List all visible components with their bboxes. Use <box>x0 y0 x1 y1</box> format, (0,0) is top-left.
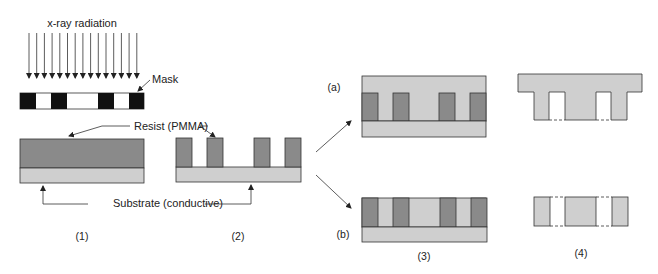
mask-pointer <box>138 80 150 91</box>
step3a-structure <box>362 76 486 137</box>
step3-label: (3) <box>418 250 431 262</box>
liga-process-diagram: x-ray radiation Mask Resist (PMMA) <box>0 0 658 274</box>
resist-leader-1 <box>69 126 130 136</box>
radiation-arrows <box>29 33 137 78</box>
step1-resist <box>20 139 144 168</box>
step2-substrate <box>176 167 301 182</box>
step1-substrate <box>20 168 144 183</box>
step3a-substrate <box>362 121 486 137</box>
step2-structure <box>176 138 301 182</box>
mask-label: Mask <box>152 73 179 85</box>
mask <box>20 93 144 109</box>
branch-a-arrow <box>316 121 351 152</box>
step3b-substrate <box>362 227 487 242</box>
step4a-structure <box>518 74 642 120</box>
step1-label: (1) <box>76 230 89 242</box>
step4b-structure <box>534 197 628 226</box>
substrate-label: Substrate (conductive) <box>113 197 223 209</box>
diagram-svg: x-ray radiation Mask Resist (PMMA) <box>0 0 658 274</box>
branch-a-label: (a) <box>328 81 341 93</box>
step1-structure <box>20 139 144 183</box>
step4-label: (4) <box>575 247 588 259</box>
branch-b-label: (b) <box>337 228 350 240</box>
step3a-metal <box>362 76 486 121</box>
resist-label: Resist (PMMA) <box>134 120 208 132</box>
step2-label: (2) <box>232 230 245 242</box>
substrate-leader-1 <box>43 186 88 204</box>
radiation-label: x-ray radiation <box>47 17 117 29</box>
step3b-structure <box>362 198 487 242</box>
branch-b-arrow <box>316 175 351 208</box>
